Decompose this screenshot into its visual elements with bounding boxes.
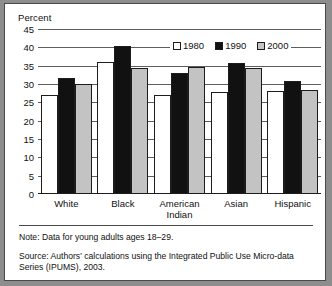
note-text: Note: Data for young adults ages 18–29. bbox=[19, 232, 315, 244]
bar-2000-asian bbox=[245, 68, 262, 194]
y-tick-label: 30 bbox=[23, 79, 34, 90]
bar-group-american-indian: AmericanIndian bbox=[151, 29, 208, 194]
legend-item-1990: 1990 bbox=[215, 40, 246, 51]
bar-1980-white bbox=[41, 95, 58, 194]
figure-panel: Percent 454035302520151050WhiteBlackAmer… bbox=[4, 3, 326, 281]
bar-1980-american-indian bbox=[154, 95, 171, 194]
y-tick-label: 25 bbox=[23, 97, 34, 108]
bar-1990-white bbox=[58, 78, 75, 194]
legend-label: 1990 bbox=[225, 40, 246, 51]
x-tick-label-line2: Indian bbox=[159, 209, 199, 220]
legend-swatch-icon bbox=[215, 42, 223, 50]
notes-block: Note: Data for young adults ages 18–29. … bbox=[19, 232, 315, 274]
bar-1990-black bbox=[114, 46, 131, 194]
divider bbox=[19, 225, 313, 226]
legend-label: 2000 bbox=[267, 40, 288, 51]
bar-1980-black bbox=[97, 62, 114, 194]
y-tick-label: 5 bbox=[29, 170, 34, 181]
legend-swatch-icon bbox=[257, 42, 265, 50]
y-tick-label: 35 bbox=[23, 60, 34, 71]
x-tick-label-line1: White bbox=[54, 198, 78, 209]
x-tick-label: Asian bbox=[224, 198, 248, 209]
x-tick-label-line1: Asian bbox=[224, 198, 248, 209]
bar-2000-american-indian bbox=[188, 67, 205, 194]
x-tick-label: White bbox=[54, 198, 78, 209]
y-tick-label: 15 bbox=[23, 134, 34, 145]
x-tick-label: Black bbox=[111, 198, 134, 209]
legend-item-2000: 2000 bbox=[257, 40, 288, 51]
legend-label: 1980 bbox=[183, 40, 204, 51]
bar-2000-black bbox=[131, 68, 148, 194]
y-tick-label: 10 bbox=[23, 152, 34, 163]
y-tick-label: 0 bbox=[29, 189, 34, 200]
source-text: Source: Authors' calculations using the … bbox=[19, 251, 315, 274]
bar-group-black: Black bbox=[95, 29, 152, 194]
x-tick-label-line1: Hispanic bbox=[274, 198, 310, 209]
bar-group-white: White bbox=[38, 29, 95, 194]
bar-1990-hispanic bbox=[284, 81, 301, 194]
bar-group-hispanic: Hispanic bbox=[264, 29, 321, 194]
legend-swatch-icon bbox=[173, 42, 181, 50]
bar-1990-american-indian bbox=[171, 73, 188, 194]
y-axis-title: Percent bbox=[18, 12, 51, 23]
y-tick-label: 45 bbox=[23, 24, 34, 35]
x-tick-label: AmericanIndian bbox=[159, 198, 199, 220]
bar-1980-hispanic bbox=[267, 91, 284, 194]
bar-2000-hispanic bbox=[301, 90, 318, 195]
x-tick-label: Hispanic bbox=[274, 198, 310, 209]
y-tick-label: 40 bbox=[23, 42, 34, 53]
bar-1990-asian bbox=[228, 63, 245, 194]
legend-item-1980: 1980 bbox=[173, 40, 204, 51]
chart-legend: 198019902000 bbox=[170, 39, 291, 52]
plot-area: 454035302520151050WhiteBlackAmericanIndi… bbox=[38, 29, 321, 194]
bar-2000-white bbox=[75, 84, 92, 194]
x-tick-label-line1: American bbox=[159, 198, 199, 209]
x-tick-label-line1: Black bbox=[111, 198, 134, 209]
bar-group-asian: Asian bbox=[208, 29, 265, 194]
y-tick-label: 20 bbox=[23, 115, 34, 126]
bar-1980-asian bbox=[211, 92, 228, 194]
